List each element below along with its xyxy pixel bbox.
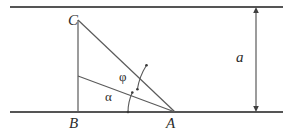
geometry-figure: C B A a φ α bbox=[0, 0, 294, 139]
arc-endpoint-dot bbox=[127, 111, 130, 114]
figure-canvas bbox=[0, 0, 294, 139]
dimension-arrow-top-icon bbox=[253, 7, 259, 13]
angle-label-alpha: α bbox=[105, 90, 112, 103]
vertex-label-a: A bbox=[166, 116, 175, 131]
dimension-arrow-bottom-icon bbox=[253, 106, 259, 112]
angle-label-phi: φ bbox=[119, 70, 127, 83]
vertex-label-b: B bbox=[69, 116, 78, 131]
vertex-label-c: C bbox=[68, 13, 78, 28]
arc-endpoint-dot bbox=[131, 91, 134, 94]
arc-endpoint-dot bbox=[136, 88, 139, 91]
arc-endpoint-dot bbox=[145, 64, 148, 67]
dimension-label-a: a bbox=[236, 50, 244, 65]
segment-ca bbox=[78, 20, 175, 112]
